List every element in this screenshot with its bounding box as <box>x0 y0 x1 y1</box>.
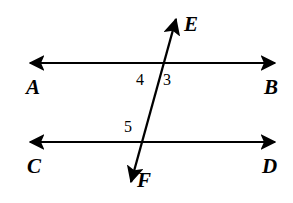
vertex-label-c: C <box>27 156 41 177</box>
vertex-label-b: B <box>264 77 278 98</box>
angle-label-4: 4 <box>136 72 144 88</box>
vertex-label-d: D <box>262 156 277 177</box>
vertex-label-f: F <box>137 170 151 191</box>
vertex-label-a: A <box>26 77 40 98</box>
angle-label-3: 3 <box>163 72 171 88</box>
line-ef-transversal <box>131 19 176 182</box>
geometry-figure: A B C D E F 4 3 5 <box>0 0 293 203</box>
vertex-label-e: E <box>184 14 198 35</box>
angle-label-5: 5 <box>124 119 132 135</box>
